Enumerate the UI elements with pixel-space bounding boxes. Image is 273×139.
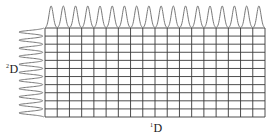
left-projection-trace bbox=[19, 28, 44, 117]
y-axis-label: 2D bbox=[6, 63, 18, 75]
x-axis-label: 1D bbox=[150, 122, 162, 134]
x-axis-label-text: D bbox=[154, 121, 163, 135]
y-axis-label-text: D bbox=[10, 62, 19, 76]
spectrum-diagram bbox=[0, 0, 273, 139]
grid bbox=[45, 28, 265, 117]
top-projection-trace bbox=[45, 6, 265, 28]
